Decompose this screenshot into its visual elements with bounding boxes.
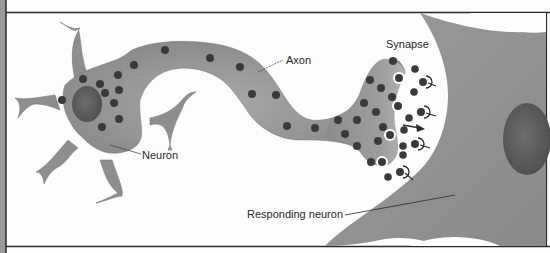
label-axon: Axon bbox=[286, 55, 311, 66]
axon-terminal bbox=[325, 59, 406, 166]
responding-nucleus bbox=[503, 103, 550, 175]
label-synapse: Synapse bbox=[386, 39, 429, 50]
sending-nucleus bbox=[72, 86, 102, 122]
neuron-synapse-diagram: Neuron Axon Synapse Responding neuron bbox=[0, 0, 550, 253]
label-responding-neuron: Responding neuron bbox=[247, 209, 343, 220]
side-strip bbox=[0, 0, 6, 253]
label-neuron: Neuron bbox=[142, 150, 178, 161]
